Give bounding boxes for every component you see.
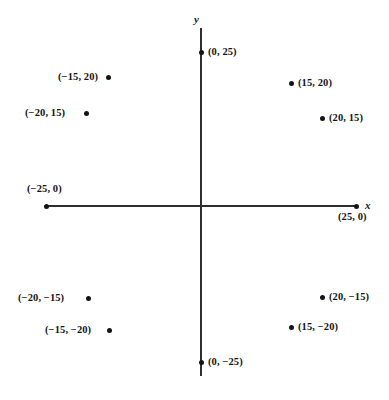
data-point-dot: [86, 296, 91, 301]
data-point-dot: [320, 116, 325, 121]
data-point-dot: [199, 50, 204, 55]
data-point-dot: [106, 75, 111, 80]
data-point-dot: [107, 328, 112, 333]
data-point-dot: [289, 81, 294, 86]
data-point-label: (0, −25): [208, 357, 243, 368]
data-point-label: (25, 0): [338, 212, 367, 223]
data-point-label: (15, 20): [298, 78, 332, 89]
x-axis-label: x: [365, 200, 371, 211]
data-point-label: (−15, −20): [45, 325, 91, 336]
data-point-dot: [44, 204, 49, 209]
data-point-dot: [199, 360, 204, 365]
data-point-label: (20, 15): [329, 113, 363, 124]
data-point-label: (−20, 15): [25, 108, 65, 119]
data-point-label: (−25, 0): [27, 184, 62, 195]
y-axis-label: y: [194, 14, 199, 25]
data-point-label: (0, 25): [208, 47, 237, 58]
coordinate-plane-figure: x y (0, 25)(−15, 20)(15, 20)(−20, 15)(20…: [0, 0, 389, 400]
data-point-dot: [84, 111, 89, 116]
data-point-label: (15, −20): [298, 322, 338, 333]
data-point-label: (20, −15): [329, 292, 369, 303]
data-point-label: (−15, 20): [58, 72, 98, 83]
data-point-dot: [320, 295, 325, 300]
data-point-dot: [289, 325, 294, 330]
data-point-label: (−20, −15): [18, 293, 64, 304]
data-point-dot: [354, 204, 359, 209]
y-axis-line: [200, 28, 202, 376]
